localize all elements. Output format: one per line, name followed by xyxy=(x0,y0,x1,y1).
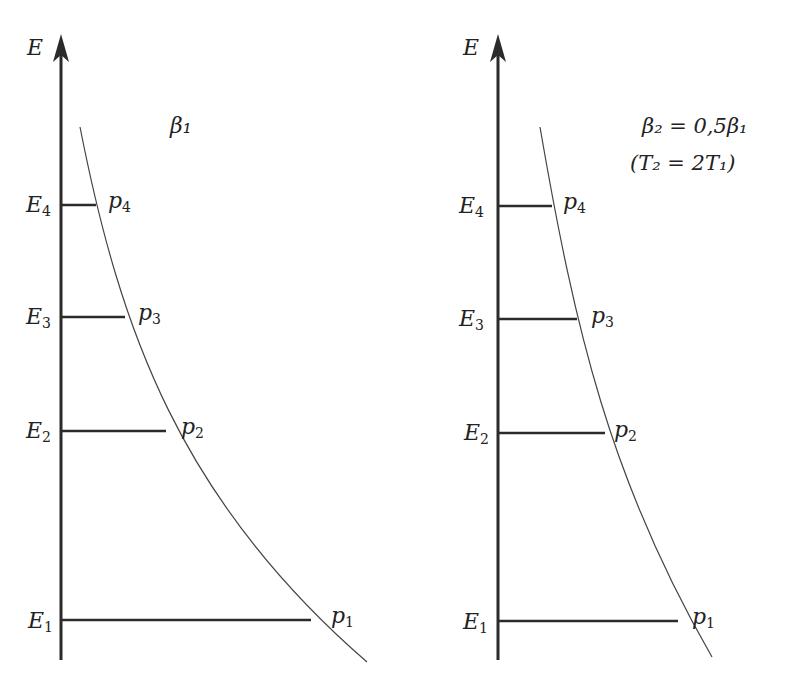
population-label-p4: p4 xyxy=(108,188,131,215)
left-panel: E β₁ E4 E3 E2 E1 p4 p3 p2 p1 xyxy=(25,34,367,662)
level-label-e1: E1 xyxy=(27,608,53,635)
population-label-p2: p2 xyxy=(181,414,204,441)
level-label-e2: E2 xyxy=(463,420,489,447)
population-label-p3: p3 xyxy=(591,303,614,330)
level-label-e4: E4 xyxy=(25,192,51,219)
level-label-e2: E2 xyxy=(25,418,51,445)
population-label-p1: p1 xyxy=(331,603,354,630)
population-label-p2: p2 xyxy=(614,417,637,444)
level-label-e3: E3 xyxy=(458,306,484,333)
population-label-p1: p1 xyxy=(692,604,715,631)
axis-label: E xyxy=(462,35,479,60)
population-label-p4: p4 xyxy=(563,189,586,216)
energy-level-diagram: E β₁ E4 E3 E2 E1 p4 p3 p2 p1 E β₂ = 0,5β… xyxy=(0,0,785,689)
level-label-e1: E1 xyxy=(462,609,488,636)
panel-title: β₁ xyxy=(169,113,192,138)
panel-title-line1: β₂ = 0,5β₁ xyxy=(641,114,747,138)
axis-label: E xyxy=(26,35,43,60)
population-label-p3: p3 xyxy=(138,300,161,327)
level-label-e3: E3 xyxy=(25,304,51,331)
right-panel: E β₂ = 0,5β₁ (T₂ = 2T₁) E4 E3 E2 E1 p4 p… xyxy=(458,34,747,660)
level-label-e4: E4 xyxy=(458,193,484,220)
panel-title-line2: (T₂ = 2T₁) xyxy=(630,151,736,175)
